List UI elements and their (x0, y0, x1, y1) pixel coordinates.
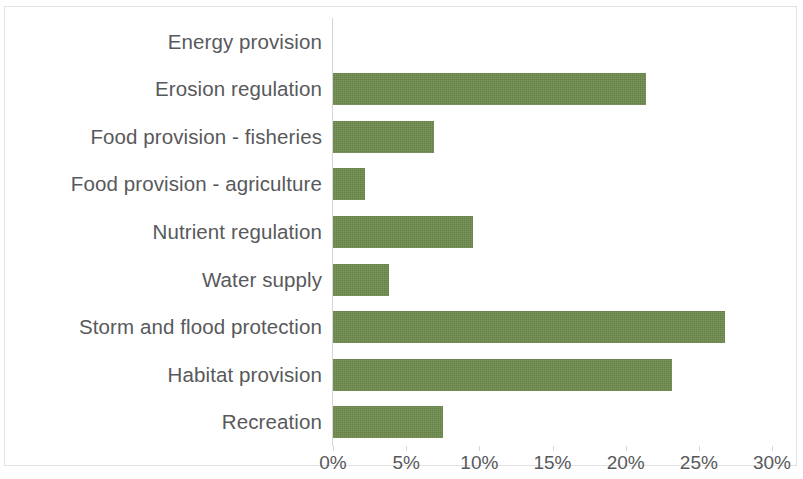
bar (333, 406, 443, 438)
bar-track (333, 161, 803, 209)
category-label: Energy provision (168, 31, 322, 54)
category-label: Erosion regulation (155, 78, 322, 101)
x-tick-label: 30% (753, 450, 791, 476)
bar-row: Food provision - agriculture (0, 161, 803, 209)
bar-track (333, 351, 803, 399)
bar-rows: Energy provisionErosion regulationFood p… (0, 18, 803, 446)
plot-area: Energy provisionErosion regulationFood p… (0, 0, 803, 479)
bar-track (333, 113, 803, 161)
category-label: Food provision - fisheries (90, 126, 322, 149)
bar-row: Storm and flood protection (0, 303, 803, 351)
bar (333, 264, 389, 296)
bar-track (333, 256, 803, 304)
bar-row: Energy provision (0, 18, 803, 66)
bar-track (333, 66, 803, 114)
bar (333, 216, 473, 248)
x-tick-label: 5% (392, 450, 419, 476)
category-label: Nutrient regulation (153, 221, 322, 244)
bar (333, 121, 434, 153)
category-label: Food provision - agriculture (71, 173, 322, 196)
bar (333, 311, 725, 343)
bar (333, 73, 646, 105)
bar-track (333, 208, 803, 256)
bar-track (333, 18, 803, 66)
bar-row: Food provision - fisheries (0, 113, 803, 161)
x-tick-label: 25% (680, 450, 718, 476)
bar-row: Recreation (0, 399, 803, 447)
bar (333, 359, 672, 391)
category-label: Recreation (222, 411, 322, 434)
bar-track (333, 399, 803, 447)
category-label: Storm and flood protection (79, 316, 322, 339)
x-tick-label: 0% (319, 450, 346, 476)
bar-row: Nutrient regulation (0, 208, 803, 256)
bar-chart: Energy provisionErosion regulationFood p… (0, 0, 803, 479)
x-tick-label: 10% (460, 450, 498, 476)
bar-row: Habitat provision (0, 351, 803, 399)
x-axis-tick-labels: 0%5%10%15%20%25%30% (0, 450, 803, 476)
x-tick-label: 15% (533, 450, 571, 476)
x-tick-label: 20% (607, 450, 645, 476)
category-label: Water supply (202, 268, 322, 291)
bar-row: Water supply (0, 256, 803, 304)
bar-row: Erosion regulation (0, 66, 803, 114)
bar-track (333, 303, 803, 351)
category-label: Habitat provision (168, 363, 322, 386)
bar (333, 168, 365, 200)
